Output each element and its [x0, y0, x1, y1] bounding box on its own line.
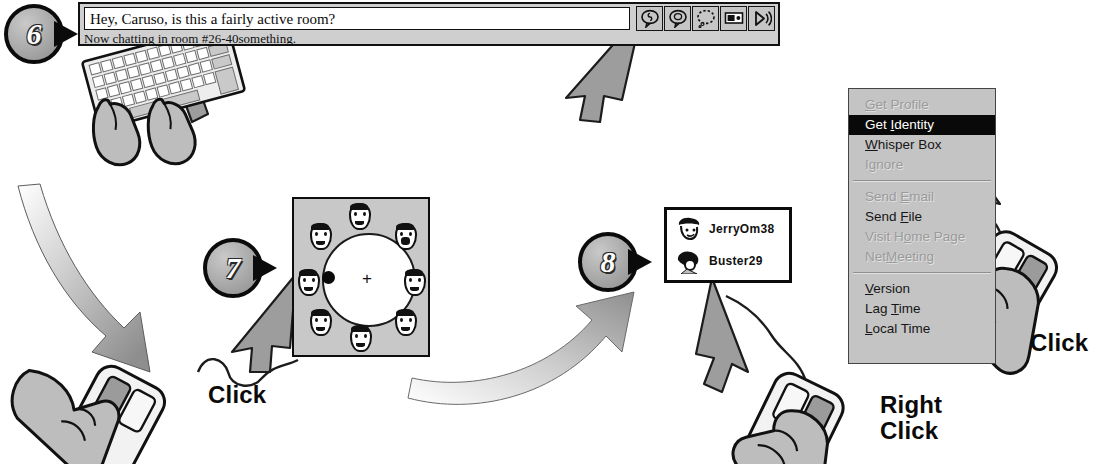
menu-item-local-time[interactable]: Local Time	[849, 319, 995, 339]
menu-item-get-profile[interactable]: Get Profile	[849, 95, 995, 115]
room-avatar-nw[interactable]	[310, 223, 332, 250]
whisper-bubble-icon[interactable]	[636, 6, 663, 31]
menu-item-get-identity[interactable]: Get Identity	[849, 115, 995, 135]
menu-item-version[interactable]: Version	[849, 279, 995, 299]
user-list-item-1[interactable]: Buster29	[675, 246, 763, 276]
room-selected-dot[interactable]	[322, 271, 335, 284]
room-avatar-e[interactable]	[404, 269, 426, 296]
menu-item-visit-home-page[interactable]: Visit Home Page	[849, 227, 995, 247]
user-list-item-0[interactable]: JerryOm38	[675, 214, 774, 244]
menu-item-netmeeting[interactable]: NetMeeting	[849, 247, 995, 267]
hat-man-avatar	[675, 216, 703, 242]
user-name: Buster29	[709, 254, 763, 268]
step-badge-8: 8	[578, 232, 638, 292]
room-avatar-ne[interactable]	[395, 223, 417, 250]
chat-status-text: Now chatting in room #26-40something.	[84, 32, 774, 46]
step-8-pointer	[628, 249, 652, 275]
hand-mouse-left	[0, 329, 170, 464]
menu-item-send-file[interactable]: Send File	[849, 207, 995, 227]
room-avatar-s[interactable]	[350, 325, 372, 352]
room-avatar-se[interactable]	[395, 309, 417, 336]
user-name: JerryOm38	[709, 222, 774, 236]
lamp-person-avatar	[675, 248, 703, 274]
room-center-marker: +	[360, 273, 374, 287]
user-list: JerryOm38 Buster29	[664, 207, 792, 283]
menu-separator-1	[853, 180, 991, 182]
step-7-pointer	[253, 255, 277, 281]
menu-item-ignore[interactable]: Ignore	[849, 155, 995, 175]
menu-item-lag-time[interactable]: Lag Time	[849, 299, 995, 319]
chat-input[interactable]: Hey, Caruso, is this a fairly active roo…	[84, 7, 630, 30]
chat-toolbar	[636, 6, 778, 31]
room-avatar-w[interactable]	[298, 269, 320, 296]
speaker-icon[interactable]	[748, 6, 775, 31]
hand-mouse-center	[719, 364, 866, 464]
label-right-click-line1: Right	[880, 392, 942, 417]
room-avatar-n[interactable]	[349, 203, 371, 230]
flow-arrow-1	[18, 184, 150, 372]
chat-window: Hey, Caruso, is this a fairly active roo…	[78, 2, 780, 46]
illustration-canvas: 6 7 8 Hey, Caruso, is this a fairly acti…	[0, 0, 1101, 464]
room-avatar-sw[interactable]	[310, 309, 332, 336]
keyboard-with-hands	[68, 23, 259, 187]
display-icon[interactable]	[720, 6, 747, 31]
speech-bubble-icon[interactable]	[664, 6, 691, 31]
label-click-far-right: Click	[1030, 330, 1088, 355]
menu-item-whisper-box[interactable]: Whisper Box	[849, 135, 995, 155]
flow-arrow-2	[408, 292, 634, 404]
chat-room-view[interactable]: +	[292, 197, 430, 357]
label-click-left: Click	[208, 382, 266, 407]
user-context-menu: Get Profile Get Identity Whisper Box Ign…	[848, 88, 996, 364]
step-badge-7: 7	[203, 238, 263, 298]
thought-bubble-icon[interactable]	[692, 6, 719, 31]
cursor-arrow-userlist	[696, 278, 748, 392]
step-6-pointer	[54, 21, 78, 47]
menu-item-send-email[interactable]: Send Email	[849, 187, 995, 207]
menu-separator-2	[853, 272, 991, 274]
mouse-cable-center	[726, 296, 806, 382]
step-badge-6: 6	[4, 4, 64, 64]
label-right-click-line2: Click	[880, 418, 938, 443]
